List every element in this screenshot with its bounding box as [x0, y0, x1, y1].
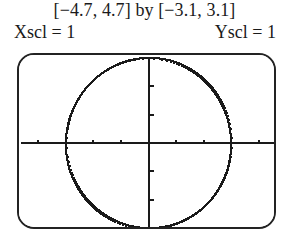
xscl-label: Xscl = 1 [14, 21, 75, 43]
window-spec-header: [−4.7, 4.7] by [−3.1, 3.1] Xscl = 1 Yscl… [0, 0, 289, 52]
yscl-label: Yscl = 1 [215, 21, 276, 43]
calculator-screen [17, 53, 276, 229]
graph-plot-area [19, 55, 276, 229]
scale-settings-row: Xscl = 1 Yscl = 1 [14, 21, 276, 43]
window-range-label: [−4.7, 4.7] by [−3.1, 3.1] [0, 0, 289, 21]
